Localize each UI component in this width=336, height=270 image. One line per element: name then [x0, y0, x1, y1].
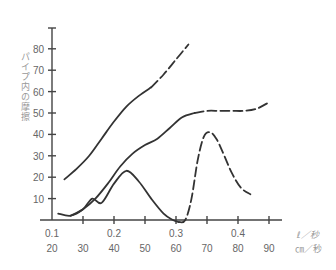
axes: [40, 28, 282, 224]
x-tick-label-secondary: 70: [201, 243, 213, 254]
y-tick-label: 40: [33, 129, 45, 140]
curve-3-dashed: [179, 132, 250, 222]
x-unit-primary: ℓ／秒: [296, 230, 320, 240]
x-tick-label-primary: 0.2: [107, 228, 121, 239]
x-unit-secondary: ㎝／秒: [295, 243, 322, 254]
curve-1-solid: [64, 87, 151, 179]
x-tick-label-primary: 0.1: [45, 228, 59, 239]
friction-chart: 102030405060708020304050607080900.10.20.…: [0, 0, 336, 270]
x-tick-label-secondary: 90: [263, 243, 275, 254]
x-tick-label-primary: 0.4: [231, 228, 245, 239]
x-tick-label-secondary: 60: [170, 243, 182, 254]
x-tick-label-primary: 0.3: [169, 228, 183, 239]
x-tick-label-secondary: 30: [77, 243, 89, 254]
y-tick-label: 60: [33, 87, 45, 98]
y-axis-label: パイプ内の摩擦: [18, 52, 32, 122]
curve-3-solid: [58, 171, 179, 222]
x-tick-label-secondary: 50: [139, 243, 151, 254]
y-tick-label: 20: [33, 172, 45, 183]
curve-2-dashed: [195, 102, 269, 113]
curve-1-dashed: [151, 45, 188, 88]
curves: [58, 45, 269, 223]
y-tick-label: 10: [33, 194, 45, 205]
y-tick-label: 70: [33, 65, 45, 76]
y-tick-label: 30: [33, 151, 45, 162]
x-tick-label-secondary: 20: [46, 243, 58, 254]
x-tick-label-secondary: 80: [232, 243, 244, 254]
x-tick-label-secondary: 40: [108, 243, 120, 254]
y-tick-label: 50: [33, 108, 45, 119]
y-tick-label: 80: [33, 44, 45, 55]
